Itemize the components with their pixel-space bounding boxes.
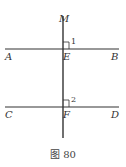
label-e: E	[62, 51, 71, 62]
figure-caption: 图 80	[0, 146, 126, 161]
right-angle-mark-1	[63, 42, 69, 49]
geometry-figure: M A E B 1 C F D 2	[0, 0, 126, 167]
right-angle-mark-2	[63, 100, 69, 107]
label-b: B	[110, 51, 118, 62]
label-d: D	[110, 109, 119, 120]
label-angle-1: 1	[71, 37, 76, 46]
label-a: A	[4, 51, 12, 62]
label-m: M	[58, 13, 70, 24]
label-angle-2: 2	[71, 95, 76, 104]
label-f: F	[62, 109, 71, 120]
label-c: C	[5, 109, 13, 120]
